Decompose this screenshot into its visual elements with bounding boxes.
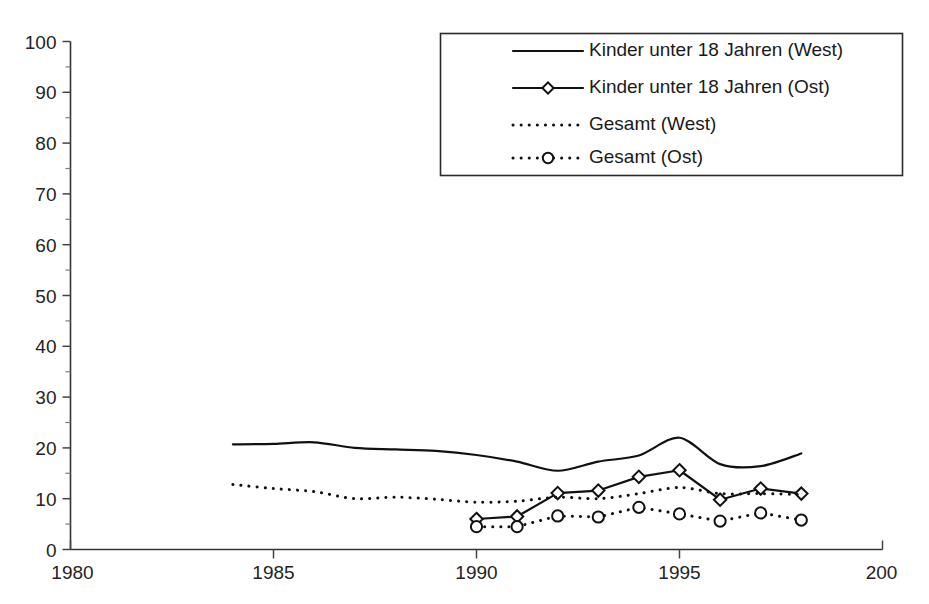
data-point-marker-circle	[511, 521, 522, 532]
y-axis-tick-label: 80	[35, 133, 56, 154]
legend-item-label: Gesamt (Ost)	[589, 146, 703, 167]
data-point-marker-circle	[674, 508, 685, 519]
data-point-marker-diamond	[633, 471, 645, 483]
y-axis-tick-label: 60	[35, 235, 56, 256]
y-axis-tick-label: 20	[35, 438, 56, 459]
legend-item-label: Gesamt (West)	[589, 113, 716, 134]
chart-canvas: 0102030405060708090100 19801985199019952…	[0, 0, 929, 604]
y-axis-tick-label: 10	[35, 489, 56, 510]
data-point-marker-circle	[715, 515, 726, 526]
data-point-marker-diamond	[592, 484, 604, 496]
x-axis-tick-label: 1980	[51, 562, 93, 583]
y-axis-tick-label: 0	[46, 540, 57, 561]
data-point-marker-circle	[755, 507, 766, 518]
y-axis: 0102030405060708090100	[25, 32, 71, 561]
x-axis: 1980198519901995200	[51, 541, 897, 583]
x-axis-tick-label: 1985	[252, 562, 294, 583]
data-point-marker-circle	[593, 511, 604, 522]
y-axis-tick-label: 70	[35, 184, 56, 205]
data-point-marker-circle	[796, 514, 807, 525]
x-axis-tick-label: 1995	[658, 562, 700, 583]
y-axis-tick-label: 30	[35, 387, 56, 408]
data-point-marker-circle	[471, 521, 482, 532]
y-axis-tick-label: 50	[35, 286, 56, 307]
data-point-marker-circle	[552, 510, 563, 521]
series-layer	[233, 438, 808, 533]
y-axis-tick-label: 40	[35, 336, 56, 357]
x-axis-tick-label: 1990	[455, 562, 497, 583]
legend-item-label: Kinder unter 18 Jahren (Ost)	[589, 76, 830, 97]
y-axis-tick-label: 100	[25, 32, 57, 53]
legend-marker-circle	[543, 153, 553, 163]
y-axis-tick-label: 90	[35, 82, 56, 103]
x-axis-tick-label: 200	[866, 562, 898, 583]
series-1	[233, 438, 801, 471]
legend-item-label: Kinder unter 18 Jahren (West)	[589, 39, 843, 60]
line-chart: 0102030405060708090100 19801985199019952…	[0, 0, 929, 604]
series-path	[233, 438, 801, 471]
chart-legend: Kinder unter 18 Jahren (West)Kinder unte…	[441, 34, 903, 176]
data-point-marker-circle	[633, 502, 644, 513]
